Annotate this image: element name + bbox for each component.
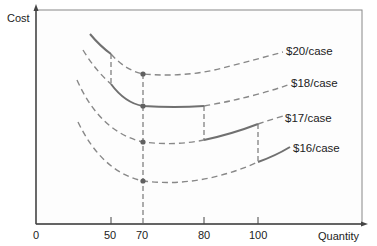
x-tick-70: 70 <box>136 230 148 241</box>
curve-label-18: $18/case <box>291 78 338 90</box>
curve-label-16: $16/case <box>293 143 340 155</box>
curve-label-17: $17/case <box>285 113 332 125</box>
x-tick-50: 50 <box>104 230 116 241</box>
curve-label-20: $20/case <box>286 46 333 58</box>
y-axis-label: Cost <box>7 13 30 24</box>
x-axis-label: Quantity <box>318 231 359 242</box>
x-tick-80: 80 <box>198 230 210 241</box>
x-tick-0: 0 <box>33 230 39 241</box>
x-tick-100: 100 <box>249 230 267 241</box>
x-axis-arrow-icon <box>361 222 368 227</box>
y-axis-arrow-icon <box>34 4 39 11</box>
